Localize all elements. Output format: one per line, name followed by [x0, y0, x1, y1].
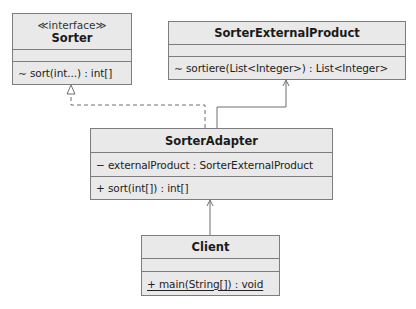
- class-header: ≪interface≫ Sorter: [13, 14, 131, 49]
- operation: + sort(int[]) : int[]: [96, 182, 189, 194]
- class-box-sorter-external-product[interactable]: SorterExternalProduct ∼ sortiere(List<In…: [168, 21, 406, 80]
- class-name: Client: [192, 240, 230, 254]
- open-arrowhead-icon: [283, 80, 289, 86]
- operation: ∼ sortiere(List<Integer>) : List<Integer…: [174, 62, 388, 74]
- attributes-compartment: [142, 258, 279, 271]
- class-name: SorterAdapter: [165, 134, 258, 148]
- operations-compartment: ∼ sortiere(List<Integer>) : List<Integer…: [169, 56, 405, 79]
- operations-compartment: ∼ sort(int...) : int[]: [13, 61, 131, 84]
- attributes-compartment: [169, 44, 405, 56]
- uml-diagram-canvas: ≪interface≫ Sorter ∼ sort(int...) : int[…: [0, 0, 416, 309]
- attributes-compartment: − externalProduct : SorterExternalProduc…: [91, 152, 332, 176]
- stereotype-label: ≪interface≫: [38, 19, 107, 31]
- hollow-triangle-arrowhead-icon: [67, 85, 75, 94]
- operation: ∼ sort(int...) : int[]: [18, 67, 112, 79]
- operations-compartment: + main(String[]) : void: [142, 271, 279, 295]
- attributes-compartment: [13, 49, 131, 61]
- class-box-sorter-adapter[interactable]: SorterAdapter − externalProduct : Sorter…: [90, 128, 333, 200]
- class-header: Client: [142, 236, 279, 258]
- operations-compartment: + sort(int[]) : int[]: [91, 176, 332, 199]
- class-header: SorterExternalProduct: [169, 22, 405, 44]
- class-name: SorterExternalProduct: [214, 26, 360, 40]
- class-box-sorter[interactable]: ≪interface≫ Sorter ∼ sort(int...) : int[…: [12, 13, 132, 85]
- attribute: − externalProduct : SorterExternalProduc…: [96, 159, 313, 171]
- class-header: SorterAdapter: [91, 129, 332, 152]
- class-box-client[interactable]: Client + main(String[]) : void: [141, 235, 280, 296]
- association-adapter-to-external: [217, 80, 289, 128]
- association-client-to-adapter: [207, 200, 213, 235]
- realization-adapter-to-sorter: [67, 85, 205, 128]
- static-operation: + main(String[]) : void: [147, 278, 263, 290]
- open-arrowhead-icon: [207, 200, 213, 206]
- class-name: Sorter: [52, 31, 93, 45]
